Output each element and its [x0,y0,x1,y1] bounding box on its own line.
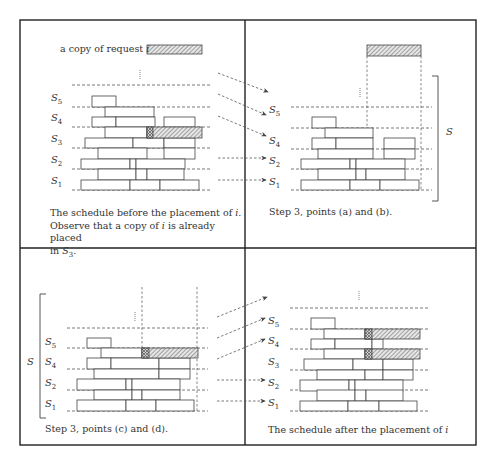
schedule-set-bracket [432,76,438,201]
request-interval [87,338,111,348]
request-interval [317,390,355,401]
mapping-arrow [218,94,266,115]
machine-label-s5: S5 [45,336,56,350]
machine-label-s1: S1 [45,398,56,412]
request-interval [105,127,147,138]
request-interval [335,339,372,349]
machine-label-s4: S4 [51,112,62,126]
request-interval [164,148,195,159]
request-interval [98,169,136,180]
machine-label-s5: S5 [269,104,280,118]
request-interval [349,380,355,391]
request-interval [379,401,417,411]
request-interval [101,348,142,358]
request-interval [142,390,180,400]
request-interval [348,401,379,411]
panel-top-left [72,45,212,190]
request-interval [372,339,383,349]
request-interval [164,117,195,127]
request-interval [366,390,403,401]
request-interval [325,128,373,138]
panel-bottom-right [290,291,430,411]
request-i-box [147,45,202,54]
request-interval [336,138,373,149]
request-interval [317,370,365,380]
request-interval [111,358,159,369]
caption-bottom-left: Step 3, points (c) and (d). [45,423,168,436]
request-interval [304,359,353,370]
mapping-arrow [217,297,267,317]
request-interval [130,180,160,190]
request-interval [136,159,185,169]
machine-label-s5: S5 [268,315,279,329]
overlap-region [365,329,372,339]
machine-label-s5: S5 [51,92,62,106]
caption-bottom-right: The schedule after the placement of i [268,424,448,437]
request-interval [77,379,126,390]
request-interval [350,180,380,190]
overlap-region [142,348,149,358]
request-interval [301,180,350,190]
request-interval [383,370,413,380]
request-interval [384,149,415,159]
request-interval [356,169,366,180]
request-interval [92,117,116,127]
machine-label-s4: S4 [45,356,56,370]
request-interval [366,169,405,180]
request-interval [300,380,349,391]
request-interval [350,159,356,169]
mapping-arrow [218,116,266,136]
request-interval [105,107,154,117]
request-interval [133,138,164,148]
machine-label-s1: S1 [269,176,280,190]
caption-top-left: The schedule before the placement of i. … [50,207,245,261]
mapping-arrow [217,318,265,338]
request-interval [365,370,383,380]
request-i-copy [147,127,202,138]
machine-label-s4: S4 [268,335,279,349]
request-interval [77,400,126,411]
request-interval [312,117,336,128]
mapping-arrow [217,339,265,359]
overlap-region [365,349,372,359]
request-interval [94,390,132,400]
request-interval [380,180,419,190]
request-interval [160,180,199,190]
request-interval [130,159,136,169]
request-interval [324,349,365,359]
machine-label-s3: S3 [268,356,279,370]
overlap-region [147,127,153,138]
request-interval [383,359,413,370]
request-interval [136,169,147,180]
request-interval [81,180,130,190]
request-interval [159,369,190,379]
request-interval [147,169,184,180]
request-interval [324,329,365,339]
caption-copy-of-request: a copy of request i [60,43,149,56]
machine-label-s2: S2 [269,155,280,169]
request-interval [156,400,194,411]
request-interval [81,159,130,169]
machine-label-s4: S4 [269,135,280,149]
schedule-set-label: S [446,126,453,137]
request-interval [311,318,335,329]
request-interval [85,138,133,148]
mapping-arrow [218,73,268,92]
request-interval [159,358,190,369]
request-interval [318,149,373,159]
request-interval [132,390,142,400]
request-interval [355,380,403,391]
request-interval [312,138,336,149]
request-interval [132,379,180,390]
request-interval [355,390,366,401]
request-interval [116,117,155,127]
request-i-copy [142,348,198,358]
request-interval [356,159,405,169]
caption-top-right: Step 3, points (a) and (b). [269,206,392,219]
request-interval [126,400,156,411]
schedule-set-label: S [27,356,34,367]
request-i-copy [365,329,420,339]
machine-label-s2: S2 [45,377,56,391]
request-interval [318,169,356,180]
request-interval [92,96,116,107]
